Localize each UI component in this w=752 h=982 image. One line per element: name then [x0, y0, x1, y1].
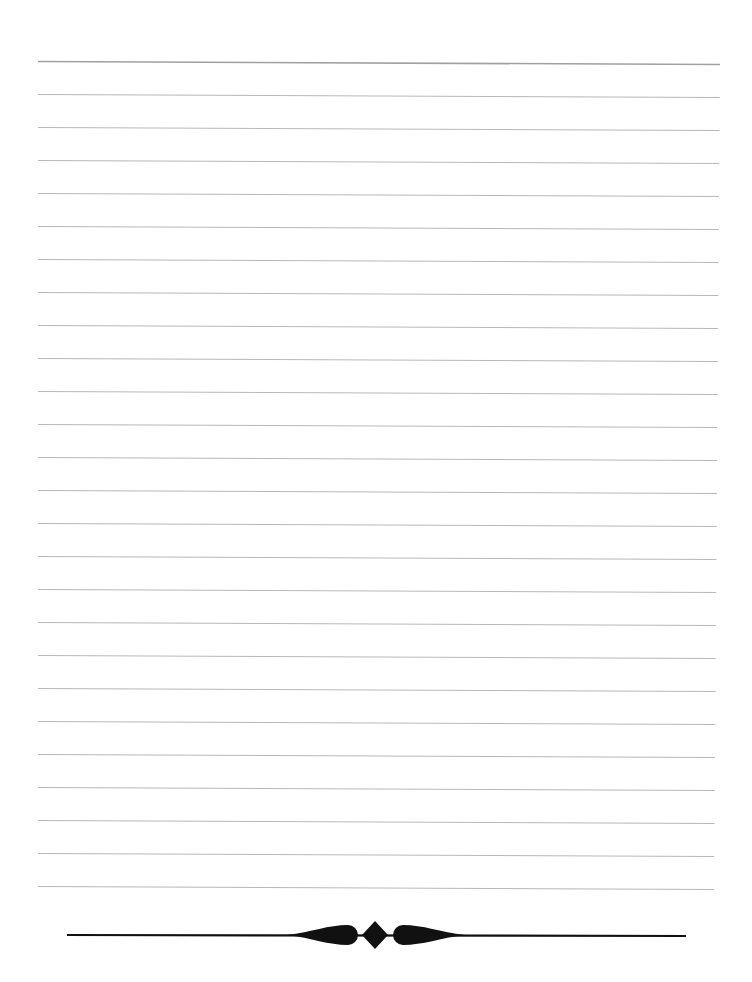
lined-paper-page: Blank lined writing page Decorative flou… [0, 0, 752, 982]
diamond-icon [362, 921, 388, 949]
flourish-divider-icon [0, 0, 752, 982]
right-teardrop-icon [393, 925, 465, 945]
left-teardrop-icon [287, 925, 358, 945]
